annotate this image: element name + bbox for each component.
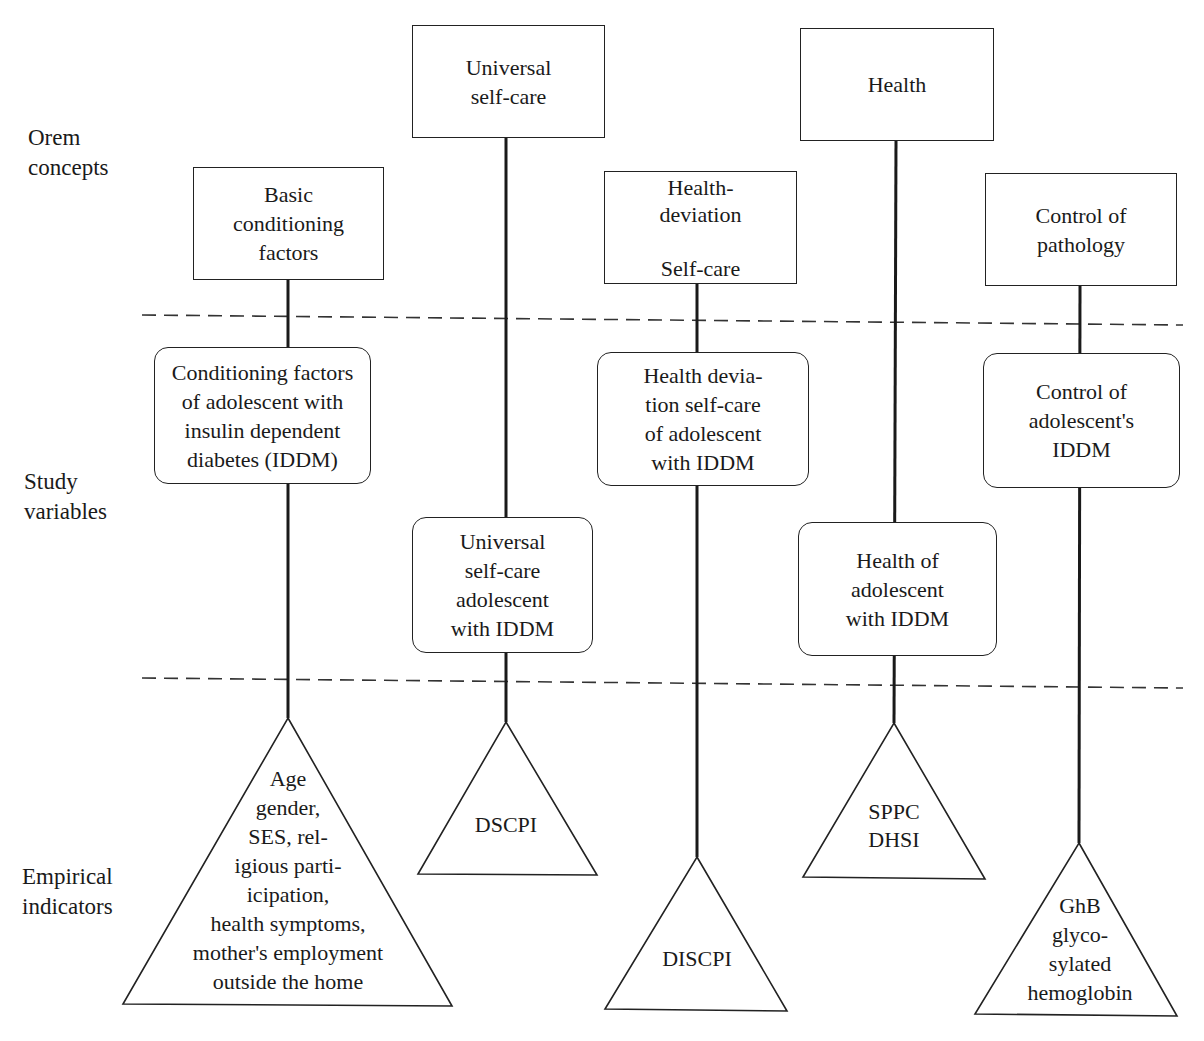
indicator-text-col5: GhB glyco- sylated hemoglobin — [1000, 891, 1160, 1007]
row-label-empirical-indicators: Empirical indicators — [22, 862, 113, 922]
concept-basic-conditioning-factors: Basic conditioning factors — [193, 167, 384, 280]
separator-variables-indicators — [142, 678, 1183, 688]
indicator-text-col4: SPPC DHSI — [834, 798, 954, 854]
indicator-triangle-col3 — [605, 857, 787, 1011]
indicator-text-col3: DISCPI — [637, 944, 757, 973]
variable-health-deviation-self-care: Health devia- tion self-care of adolesce… — [597, 352, 809, 486]
variable-conditioning-factors: Conditioning factors of adolescent with … — [154, 347, 371, 484]
row-label-orem-concepts: Orem concepts — [28, 123, 108, 183]
indicator-triangle-col2 — [418, 722, 597, 875]
variable-health-of-adolescent: Health of adolescent with IDDM — [798, 522, 997, 656]
concept-health-deviation-self-care: Health- deviation Self-care — [604, 171, 797, 284]
separator-concepts-variables — [142, 315, 1183, 325]
variable-control-of-iddm: Control of adolescent's IDDM — [983, 353, 1180, 488]
variable-universal-self-care: Universal self-care adolescent with IDDM — [412, 517, 593, 653]
indicator-text-col1: Age gender, SES, rel- igious parti- icip… — [138, 764, 438, 996]
row-label-study-variables: Study variables — [24, 467, 107, 527]
indicator-text-col2: DSCPI — [446, 810, 566, 839]
concept-control-of-pathology: Control of pathology — [985, 173, 1177, 286]
concept-health: Health — [800, 28, 994, 141]
concept-universal-self-care: Universal self-care — [412, 25, 605, 138]
